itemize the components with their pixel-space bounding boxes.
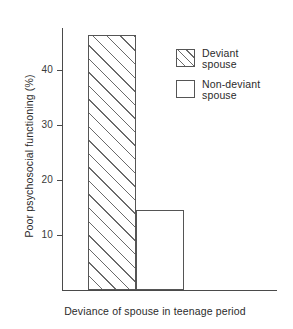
y-tick-mark-20 bbox=[57, 180, 63, 181]
y-axis-title: Poor psychosocial functioning (%) bbox=[23, 51, 35, 261]
y-tick-mark-40 bbox=[57, 70, 63, 71]
chart-legend: Deviant spouse Non-deviant spouse bbox=[176, 48, 260, 110]
bar-chart-figure: 40 30 20 10 Deviant spouse bbox=[0, 0, 293, 329]
legend-label-non-deviant-spouse-line2: spouse bbox=[202, 90, 260, 101]
y-tick-mark-30 bbox=[57, 125, 63, 126]
legend-swatch-hatched-icon bbox=[176, 49, 195, 67]
bar-deviant-spouse bbox=[88, 35, 136, 290]
legend-item-deviant-spouse: Deviant spouse bbox=[176, 48, 260, 70]
y-tick-mark-10 bbox=[57, 235, 63, 236]
y-axis-line bbox=[62, 28, 63, 291]
legend-label-deviant-spouse-line2: spouse bbox=[202, 59, 239, 70]
plot-area: 40 30 20 10 Deviant spouse bbox=[0, 0, 293, 329]
legend-label-deviant-spouse: Deviant spouse bbox=[202, 48, 239, 70]
legend-item-non-deviant-spouse: Non-deviant spouse bbox=[176, 79, 260, 101]
bar-non-deviant-spouse bbox=[136, 210, 184, 290]
x-axis-title: Deviance of spouse in teenage period bbox=[40, 305, 270, 317]
legend-swatch-empty-icon bbox=[176, 80, 195, 98]
legend-label-non-deviant-spouse: Non-deviant spouse bbox=[202, 79, 260, 101]
x-axis-line bbox=[62, 290, 277, 291]
